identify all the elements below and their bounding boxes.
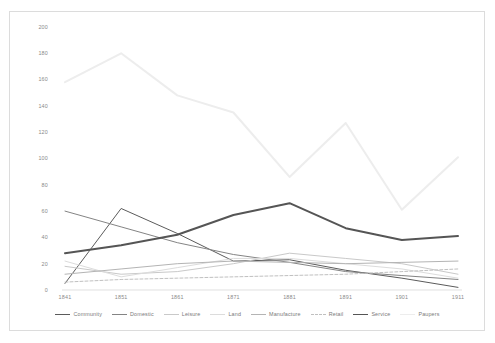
legend-label: Domestic bbox=[130, 311, 154, 317]
legend-label: Paupers bbox=[418, 311, 439, 317]
y-tick-0: 0 bbox=[22, 287, 48, 293]
y-tick-120: 120 bbox=[22, 129, 48, 135]
legend-swatch-service-icon bbox=[353, 314, 368, 315]
series-line-leisure bbox=[65, 253, 458, 274]
y-tick-140: 140 bbox=[22, 103, 48, 109]
y-tick-180: 180 bbox=[22, 50, 48, 56]
x-tick-1911: 1911 bbox=[441, 294, 475, 300]
legend-label: Manufacture bbox=[269, 311, 301, 317]
line-chart-plot bbox=[0, 0, 495, 343]
legend-item-leisure[interactable]: Leisure bbox=[164, 311, 201, 317]
legend-swatch-paupers-icon bbox=[400, 314, 415, 315]
x-tick-1871: 1871 bbox=[216, 294, 250, 300]
y-tick-40: 40 bbox=[22, 234, 48, 240]
legend-item-community[interactable]: Community bbox=[55, 311, 102, 317]
legend-item-domestic[interactable]: Domestic bbox=[112, 311, 154, 317]
legend-swatch-community-icon bbox=[55, 314, 70, 315]
x-tick-1891: 1891 bbox=[329, 294, 363, 300]
x-tick-1901: 1901 bbox=[385, 294, 419, 300]
legend-label: Community bbox=[73, 311, 102, 317]
chart-screenshot: 020406080100120140160180200 184118511861… bbox=[0, 0, 495, 343]
chart-legend: CommunityDomesticLeisureLandManufactureR… bbox=[0, 311, 495, 317]
series-lines bbox=[65, 53, 458, 287]
y-tick-160: 160 bbox=[22, 76, 48, 82]
y-tick-60: 60 bbox=[22, 208, 48, 214]
y-tick-20: 20 bbox=[22, 261, 48, 267]
x-tick-1861: 1861 bbox=[160, 294, 194, 300]
legend-item-manufacture[interactable]: Manufacture bbox=[251, 311, 301, 317]
legend-label: Service bbox=[371, 311, 390, 317]
legend-label: Leisure bbox=[182, 311, 201, 317]
legend-item-service[interactable]: Service bbox=[353, 311, 390, 317]
legend-swatch-land-icon bbox=[210, 314, 225, 315]
y-tick-200: 200 bbox=[22, 24, 48, 30]
x-tick-1881: 1881 bbox=[273, 294, 307, 300]
legend-swatch-retail-icon bbox=[311, 314, 326, 315]
legend-item-land[interactable]: Land bbox=[210, 311, 241, 317]
legend-item-retail[interactable]: Retail bbox=[311, 311, 344, 317]
legend-swatch-manufacture-icon bbox=[251, 314, 266, 315]
x-tick-1851: 1851 bbox=[104, 294, 138, 300]
y-tick-80: 80 bbox=[22, 182, 48, 188]
y-tick-100: 100 bbox=[22, 155, 48, 161]
series-line-paupers bbox=[65, 53, 458, 209]
x-tick-1841: 1841 bbox=[48, 294, 82, 300]
legend-swatch-leisure-icon bbox=[164, 314, 179, 315]
legend-label: Land bbox=[228, 311, 241, 317]
legend-item-paupers[interactable]: Paupers bbox=[400, 311, 439, 317]
series-line-service bbox=[65, 203, 458, 253]
legend-swatch-domestic-icon bbox=[112, 314, 127, 315]
legend-label: Retail bbox=[329, 311, 344, 317]
